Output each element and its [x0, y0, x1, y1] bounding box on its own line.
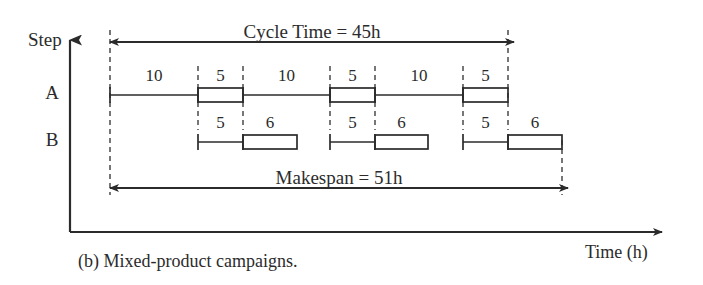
- task-bars-group: [110, 87, 562, 150]
- task-b-batch-3[interactable]: [508, 135, 562, 149]
- task-a-batch-1-duration-label: 5: [216, 67, 225, 84]
- task-a-batch-3[interactable]: [463, 88, 508, 102]
- task-a-transfer-1-duration-label: 10: [146, 67, 163, 84]
- row-label-A: A: [45, 83, 59, 102]
- task-a-batch-2-rect[interactable]: [330, 88, 375, 102]
- task-a-batch-2[interactable]: [330, 88, 375, 102]
- x-axis-label: Time (h): [585, 243, 648, 261]
- task-a-transfer-2[interactable]: [243, 87, 330, 103]
- task-a-transfer-1[interactable]: [110, 87, 198, 103]
- task-b-transfer-2-duration-label: 5: [348, 114, 357, 131]
- row-label-B: B: [46, 130, 59, 149]
- task-a-transfer-3-duration-label: 10: [411, 67, 428, 84]
- figure-caption: (b) Mixed-product campaigns.: [78, 252, 297, 270]
- task-a-batch-3-duration-label: 5: [481, 67, 490, 84]
- gantt-figure: Step Time (h) (b) Mixed-product campaign…: [0, 0, 703, 285]
- cycle-time-label: Cycle Time = 45h: [244, 22, 381, 41]
- y-axis-label: Step: [28, 30, 62, 49]
- task-b-batch-1[interactable]: [243, 135, 297, 149]
- task-b-batch-3-duration-label: 6: [531, 114, 540, 131]
- task-a-batch-1[interactable]: [198, 88, 243, 102]
- task-a-transfer-3[interactable]: [375, 87, 463, 103]
- task-b-batch-2-duration-label: 6: [397, 114, 406, 131]
- task-b-batch-1-duration-label: 6: [266, 114, 275, 131]
- task-b-batch-1-rect[interactable]: [243, 135, 297, 149]
- task-b-batch-2-rect[interactable]: [375, 135, 428, 149]
- task-a-batch-3-rect[interactable]: [463, 88, 508, 102]
- task-b-transfer-1-duration-label: 5: [216, 114, 225, 131]
- task-b-transfer-1[interactable]: [198, 134, 243, 150]
- task-b-batch-2[interactable]: [375, 135, 428, 149]
- task-a-batch-2-duration-label: 5: [348, 67, 357, 84]
- makespan-label: Makespan = 51h: [276, 168, 403, 187]
- task-b-transfer-3-duration-label: 5: [481, 114, 490, 131]
- task-b-transfer-3[interactable]: [463, 134, 508, 150]
- task-a-batch-1-rect[interactable]: [198, 88, 243, 102]
- task-a-transfer-2-duration-label: 10: [278, 67, 295, 84]
- task-b-transfer-2[interactable]: [330, 134, 375, 150]
- task-b-batch-3-rect[interactable]: [508, 135, 562, 149]
